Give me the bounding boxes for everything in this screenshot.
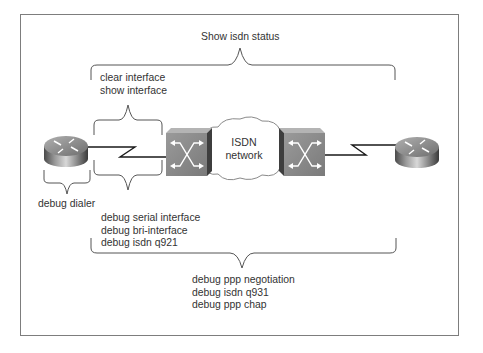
label-interface-commands: clear interface show interface bbox=[100, 72, 167, 97]
serial-link-left bbox=[86, 147, 167, 157]
label-clear-interface: clear interface bbox=[100, 72, 167, 85]
router-right-icon bbox=[395, 137, 439, 168]
brace-interface-lower bbox=[94, 160, 162, 190]
cloud-label-line2: network bbox=[218, 149, 270, 162]
label-debug-interface-commands: debug serial interface debug bri-interfa… bbox=[101, 212, 200, 250]
label-debug-ppp-negotiation: debug ppp negotiation bbox=[192, 274, 295, 287]
label-show-interface: show interface bbox=[100, 85, 167, 98]
serial-link-right bbox=[320, 145, 397, 155]
brace-dialer bbox=[44, 170, 90, 194]
brace-interface-upper bbox=[94, 105, 162, 135]
isdn-switch-right-icon bbox=[279, 128, 325, 176]
label-debug-isdn-q921: debug isdn q921 bbox=[101, 237, 200, 250]
label-debug-dialer: debug dialer bbox=[38, 198, 95, 211]
cloud-label: ISDN network bbox=[218, 136, 270, 162]
label-debug-serial-interface: debug serial interface bbox=[101, 212, 200, 225]
label-debug-bri-interface: debug bri-interface bbox=[101, 225, 200, 238]
router-left-icon bbox=[44, 136, 88, 167]
isdn-switch-left-icon bbox=[166, 128, 212, 176]
label-debug-isdn-q931: debug isdn q931 bbox=[192, 287, 295, 300]
label-debug-ppp-commands: debug ppp negotiation debug isdn q931 de… bbox=[192, 274, 295, 312]
label-debug-ppp-chap: debug ppp chap bbox=[192, 299, 295, 312]
cloud-label-line1: ISDN bbox=[218, 136, 270, 149]
diagram-canvas: Show isdn status clear interface show in… bbox=[0, 0, 483, 353]
label-show-isdn-status: Show isdn status bbox=[201, 31, 280, 44]
